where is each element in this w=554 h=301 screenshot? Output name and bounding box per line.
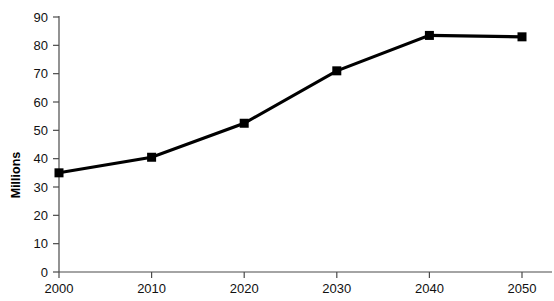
x-tick-label: 2010: [137, 281, 166, 296]
data-point-marker: [147, 153, 156, 162]
data-point-marker: [55, 168, 64, 177]
data-point-marker: [425, 31, 434, 40]
x-axis: 200020102020203020402050: [45, 272, 552, 296]
series-line: [59, 35, 522, 172]
y-tick-label: 80: [34, 38, 48, 53]
y-tick-label: 50: [34, 123, 48, 138]
x-tick-label: 2050: [508, 281, 537, 296]
x-tick-label: 2040: [415, 281, 444, 296]
y-tick-label: 0: [41, 265, 48, 280]
y-tick-label: 10: [34, 236, 48, 251]
y-tick-label: 40: [34, 151, 48, 166]
data-point-marker: [240, 119, 249, 128]
y-tick-label: 60: [34, 95, 48, 110]
y-tick-label: 90: [34, 10, 48, 25]
data-series: [55, 31, 527, 177]
line-chart: 0102030405060708090 20002010202020302040…: [0, 0, 554, 301]
chart-canvas: 0102030405060708090 20002010202020302040…: [0, 0, 554, 301]
data-point-marker: [332, 66, 341, 75]
data-point-marker: [518, 32, 527, 41]
y-tick-label: 70: [34, 66, 48, 81]
y-axis: 0102030405060708090: [34, 10, 59, 280]
x-tick-label: 2000: [45, 281, 74, 296]
y-tick-label: 20: [34, 208, 48, 223]
y-axis-title: Millions: [9, 152, 23, 199]
x-tick-label: 2020: [230, 281, 259, 296]
y-tick-label: 30: [34, 180, 48, 195]
x-tick-label: 2030: [322, 281, 351, 296]
